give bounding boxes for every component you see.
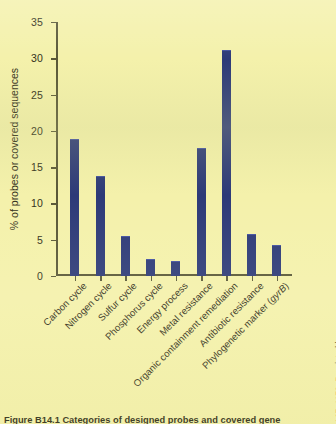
figure-number: Figure B14.1 [4,415,60,424]
bar [171,261,180,276]
figure-caption-text: Categories of designed probes and covere… [62,415,280,424]
y-tick-label: 30 [31,52,43,64]
bar-series [56,22,292,276]
bar [121,236,130,276]
plot-area: 05101520253035 [56,22,292,276]
figure-container: % of probes or covered sequences 0510152… [0,0,336,424]
y-tick-label: 15 [31,161,43,173]
y-tick-label: 0 [37,270,43,282]
x-axis-label-group: Carbon cycleNitrogen cycleSulfur cyclePh… [56,278,336,398]
bar [197,148,206,276]
bar [96,176,105,276]
bar [272,245,281,276]
y-tick-label: 35 [31,16,43,28]
y-tick-label: 5 [37,234,43,246]
bar [222,50,231,276]
figure-caption: Figure B14.1 Categories of designed prob… [4,415,334,424]
bar [247,234,256,276]
bar [70,139,79,276]
bar [146,259,155,276]
y-axis-label: % of probes or covered sequences [8,22,23,276]
y-tick-label: 25 [31,89,43,101]
y-tick-label: 10 [31,197,43,209]
y-tick-label: 20 [31,125,43,137]
